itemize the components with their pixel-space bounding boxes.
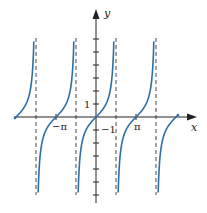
x-axis-arrow-icon — [187, 114, 197, 121]
x-axis-label: x — [191, 121, 198, 134]
curve-endpoint — [14, 117, 17, 120]
tangent-branch — [158, 115, 178, 193]
tick-label-neg-pi: −π — [52, 121, 67, 132]
y-axis-label: y — [103, 7, 111, 20]
tangent-branch — [15, 42, 34, 118]
tick-label-pi: π — [134, 121, 141, 132]
tick-label-one: 1 — [84, 99, 90, 110]
curve-endpoint — [177, 114, 180, 117]
y-axis-arrow-icon — [93, 9, 100, 19]
tangent-graph: y x −π π 1 −1 — [0, 0, 207, 213]
tick-label-neg-one: −1 — [101, 124, 116, 135]
